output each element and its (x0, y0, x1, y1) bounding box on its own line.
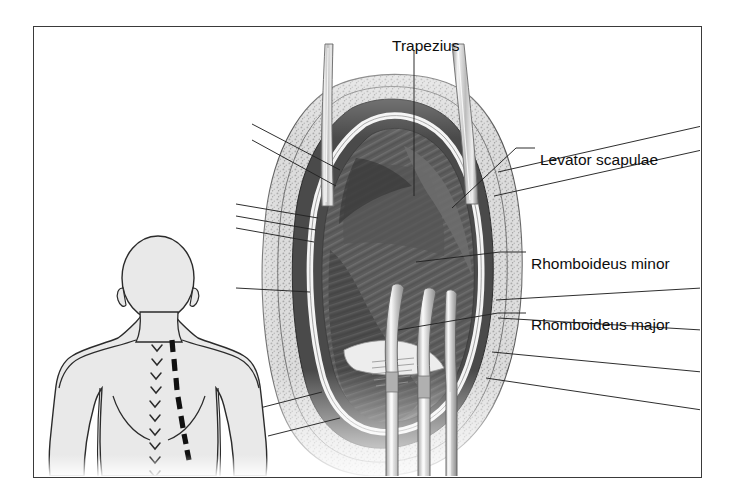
illustration-stage: Trapezius Levator scapulae Rhomboideus m… (0, 0, 735, 502)
label-rhomboideus-minor: Rhomboideus minor (531, 256, 670, 272)
illustration-artwork (0, 0, 735, 502)
label-trapezius: Trapezius (392, 38, 459, 54)
head-outline (122, 236, 194, 320)
label-levator-scapulae: Levator scapulae (540, 152, 658, 168)
neck (136, 312, 182, 342)
medical-illustration-figure: Trapezius Levator scapulae Rhomboideus m… (0, 0, 735, 502)
hook-retractor-3[interactable] (445, 290, 458, 480)
label-rhomboideus-major: Rhomboideus major (531, 317, 670, 333)
